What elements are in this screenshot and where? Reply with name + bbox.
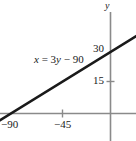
y-tick-label-15: 15 — [93, 75, 104, 86]
plotted-line — [0, 35, 136, 122]
equation-label: x = 3y − 90 — [34, 54, 84, 65]
x-tick-label-minus45: −45 — [54, 119, 71, 130]
line-graph-figure: y 30 15 −90 −45 x = 3y − 90 — [0, 0, 136, 141]
y-tick-label-30: 30 — [93, 43, 104, 54]
x-tick-label-minus90: −90 — [1, 119, 18, 130]
y-axis-label: y — [105, 1, 109, 11]
equation-constant: 90 — [73, 53, 84, 65]
